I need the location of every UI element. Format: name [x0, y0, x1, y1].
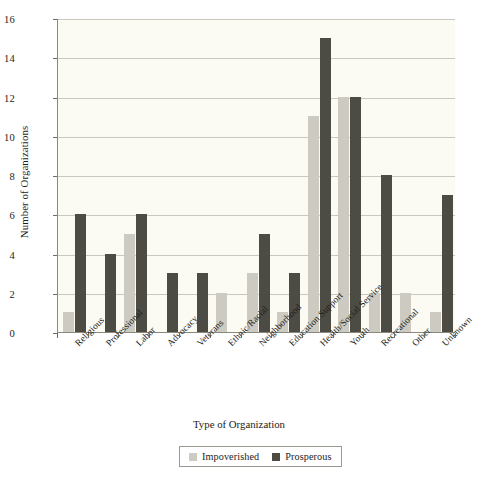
x-tick-mark	[455, 333, 456, 338]
x-tick-mark	[241, 333, 242, 338]
bar-impoverished	[430, 312, 441, 332]
bar-prosperous	[167, 273, 178, 332]
legend-label-impoverished: Impoverished	[202, 451, 259, 462]
bar-group	[308, 19, 331, 332]
x-tick-mark	[57, 333, 58, 338]
y-tick-mark	[53, 137, 57, 138]
bar-group	[430, 19, 453, 332]
y-tick-mark	[53, 255, 57, 256]
bar-group	[63, 19, 86, 332]
bar-impoverished	[308, 116, 319, 332]
y-tick-mark	[53, 294, 57, 295]
x-tick-mark	[179, 333, 180, 338]
y-tick-mark	[53, 176, 57, 177]
bar-group	[216, 19, 239, 332]
y-tick-label: 12	[0, 92, 15, 103]
y-tick-label: 2	[0, 288, 15, 299]
legend-label-prosperous: Prosperous	[285, 451, 331, 462]
x-tick-mark	[333, 333, 334, 338]
y-tick-mark	[53, 58, 57, 59]
x-tick-mark	[363, 333, 364, 338]
legend-entry-prosperous: Prosperous	[272, 451, 331, 462]
bar-prosperous	[75, 214, 86, 332]
bar-group	[338, 19, 361, 332]
bar-group	[124, 19, 147, 332]
bar-group	[277, 19, 300, 332]
bar-prosperous	[320, 38, 331, 332]
y-tick-mark	[53, 19, 57, 20]
y-tick-label: 10	[0, 131, 15, 142]
legend-swatch-prosperous	[272, 453, 280, 461]
bar-group	[155, 19, 178, 332]
x-tick-mark	[302, 333, 303, 338]
bar-prosperous	[197, 273, 208, 332]
x-tick-mark	[424, 333, 425, 338]
x-tick-mark	[210, 333, 211, 338]
y-tick-label: 14	[0, 53, 15, 64]
bar-group	[247, 19, 270, 332]
y-tick-mark	[53, 215, 57, 216]
y-tick-label: 8	[0, 171, 15, 182]
bar-prosperous	[381, 175, 392, 332]
chart-legend: Impoverished Prosperous	[179, 446, 342, 467]
bar-group	[185, 19, 208, 332]
bar-prosperous	[350, 97, 361, 333]
bar-prosperous	[442, 195, 453, 332]
y-tick-label: 6	[0, 210, 15, 221]
plot-area	[57, 19, 455, 333]
legend-swatch-impoverished	[189, 453, 197, 461]
x-axis-title: Type of Organization	[0, 418, 478, 430]
x-tick-mark	[149, 333, 150, 338]
y-tick-label: 16	[0, 14, 15, 25]
y-tick-mark	[53, 98, 57, 99]
bar-prosperous	[105, 254, 116, 333]
bar-group	[93, 19, 116, 332]
x-tick-mark	[271, 333, 272, 338]
x-tick-mark	[394, 333, 395, 338]
legend-entry-impoverished: Impoverished	[189, 451, 259, 462]
y-tick-label: 0	[0, 328, 15, 339]
x-tick-mark	[88, 333, 89, 338]
bar-group	[400, 19, 423, 332]
bar-impoverished	[63, 312, 74, 332]
bar-chart-figure: Number of Organizations Type of Organiza…	[0, 0, 478, 477]
x-tick-mark	[118, 333, 119, 338]
y-tick-label: 4	[0, 249, 15, 260]
y-axis-title: Number of Organizations	[18, 72, 30, 292]
